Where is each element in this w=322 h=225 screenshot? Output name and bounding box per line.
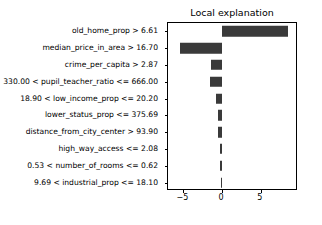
y-axis-category-label: 330.00 < pupil_teacher_ratio <= 666.00 xyxy=(3,76,158,85)
y-axis-category-label: 9.69 < industrial_prop <= 18.10 xyxy=(34,177,158,186)
y-axis-category-label: median_price_in_area > 16.70 xyxy=(42,43,158,52)
y-axis-category-label: 0.53 < number_of_rooms <= 0.62 xyxy=(27,160,158,169)
y-axis-category-label: crime_per_capita > 2.87 xyxy=(65,60,158,69)
y-axis-category-label: lower_status_prop <= 375.69 xyxy=(45,110,158,119)
x-axis-tick-labels: −505 xyxy=(167,0,297,225)
y-axis-category-labels: old_home_prop > 6.61median_price_in_area… xyxy=(0,22,163,190)
x-axis-tick-label: 0 xyxy=(219,193,224,203)
y-axis-category-label: high_way_access <= 2.08 xyxy=(58,144,158,153)
y-axis-category-label: old_home_prop > 6.61 xyxy=(72,26,158,35)
figure: Local explanation old_home_prop > 6.61me… xyxy=(0,0,322,225)
y-axis-category-label: distance_from_city_center > 93.90 xyxy=(26,127,158,136)
x-axis-tick-label: −5 xyxy=(177,193,189,203)
y-axis-category-label: 18.90 < low_income_prop <= 20.20 xyxy=(20,93,158,102)
x-axis-tick-label: 5 xyxy=(257,193,262,203)
